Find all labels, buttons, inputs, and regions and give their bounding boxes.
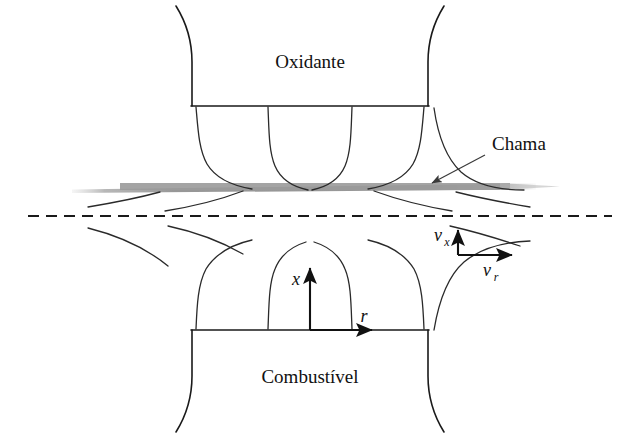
flame-band-group [72,183,560,193]
flame-leader-line [432,155,485,183]
oxidizer-streamline-3 [312,107,352,190]
velocity-vx-base: v [434,225,442,245]
flame-label: Chama [492,133,546,154]
oxidizer-streamlines [196,107,524,190]
velocity-vx-subscript: x [443,235,450,249]
velocity-vr-base: v [483,260,491,280]
fuel-streamline-3 [314,242,352,329]
fuel-label: Combustível [261,366,358,387]
axis-r-label: r [360,306,368,326]
oxidizer-outflow-right-1 [374,191,452,211]
diagram-canvas: Oxidante Combustível Chama x r v x v r [0,0,626,439]
oxidizer-outflow-streamlines [88,191,530,211]
oxidizer-streamline-4 [368,107,424,189]
oxidizer-streamline-2 [268,107,308,190]
velocity-vr-subscript: r [494,270,499,284]
fuel-nozzle-left-wall [176,330,192,432]
oxidizer-streamline-1 [196,107,252,189]
fuel-outflow-left-2 [168,226,243,254]
fuel-nozzle-right-wall [428,330,444,432]
velocity-vx-label: v x [434,225,450,249]
fuel-outflow-left-1 [88,228,168,266]
velocity-vr-label: v r [483,260,499,284]
fuel-streamline-4 [368,240,424,329]
oxidizer-label: Oxidante [275,51,345,72]
axis-x-label: x [291,269,300,289]
oxidizer-outflow-left-1 [88,192,160,207]
fuel-streamline-1 [196,240,252,329]
oxidizer-outflow-right-2 [456,192,530,207]
oxidizer-nozzle-right-wall [428,6,444,106]
velocity-vectors [458,230,512,255]
fuel-streamline-2 [268,242,306,329]
oxidizer-outflow-left-2 [165,191,243,211]
counterflow-flame-figure: Oxidante Combustível Chama x r v x v r [0,0,626,439]
fuel-outflow-right-1 [450,226,520,246]
oxidizer-nozzle-left-wall [176,6,192,106]
